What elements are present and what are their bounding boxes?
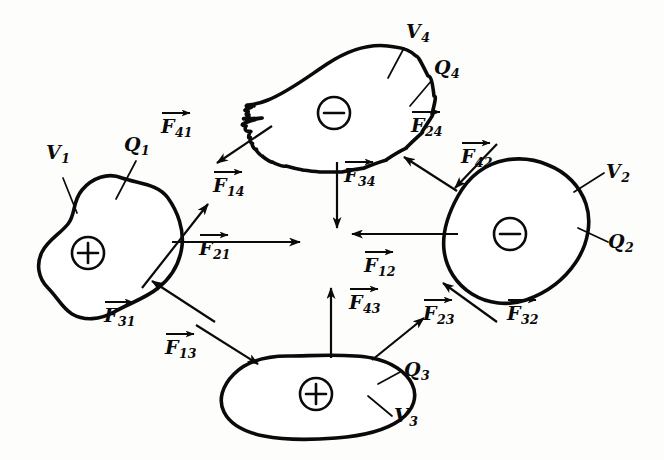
body-1-volume-leader [63, 178, 77, 213]
physics-force-diagram: V1 Q1 V4 Q4 V2 Q2 Q3 V3 F41 F21 F31 F14 … [0, 0, 664, 460]
label-v4: V4 [406, 22, 429, 41]
body-2-group [444, 159, 608, 304]
force-24-arrow [404, 157, 457, 191]
label-q3: Q3 [404, 360, 429, 379]
label-q1: Q1 [124, 135, 149, 154]
label-f31: F31 [104, 306, 135, 325]
label-v3: V3 [394, 406, 417, 425]
label-f42: F42 [461, 147, 492, 166]
label-v1: V1 [46, 143, 69, 162]
label-f12: F12 [364, 256, 395, 275]
body-1-outline [39, 176, 183, 319]
body-3-group [221, 355, 414, 439]
label-f21: F21 [199, 239, 230, 258]
body-3-outline [221, 355, 414, 439]
body-2-outline [444, 159, 589, 304]
body-4-outline [242, 46, 435, 172]
label-f43: F43 [349, 293, 380, 312]
force-23-arrow [372, 318, 424, 360]
label-f34: F34 [344, 166, 375, 185]
label-f41: F41 [161, 117, 192, 136]
body-4-group [242, 46, 435, 172]
label-f32: F32 [507, 304, 538, 323]
body-1-group [39, 161, 183, 319]
label-f14: F14 [213, 176, 244, 195]
label-q2: Q2 [608, 232, 633, 251]
label-f23: F23 [423, 304, 454, 323]
force-31-arrow [152, 281, 215, 322]
body-2-volume-leader [574, 173, 604, 192]
label-f13: F13 [165, 338, 196, 357]
label-q4: Q4 [434, 58, 459, 77]
force-13-arrow [196, 325, 258, 364]
label-f24: F24 [411, 116, 442, 135]
diagram-canvas [0, 0, 664, 460]
label-v2: V2 [606, 162, 629, 181]
